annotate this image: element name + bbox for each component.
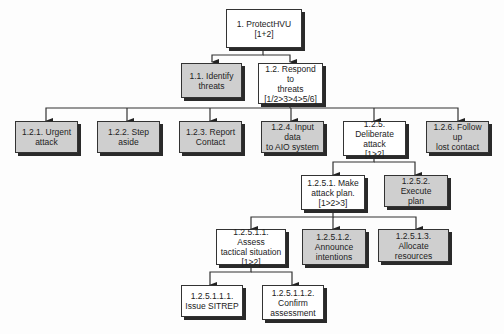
node-1-2-4-input-data: 1.2.4. Input data to AIO system — [261, 121, 324, 153]
node-1-2-3-report-contact: 1.2.3. Report Contact — [179, 121, 242, 153]
node-label: 1.2.1. Urgent attack — [22, 127, 71, 147]
node-1-2-5-1-make-attack-plan: 1.2.5.1. Make attack plan. [1>2>3] — [301, 175, 365, 210]
node-label: 1.2.2. Step aside — [100, 127, 157, 147]
node-1-2-5-1-3-allocate-resources: 1.2.5.1.3. Allocate resources — [378, 229, 449, 262]
node-1-2-5-deliberate-attack: 1.2.5. Deliberate attack [1>2] — [343, 121, 406, 156]
node-1-2-respond-to-threats: 1.2. Respond to threats [1/2>3>4>5/6] — [258, 63, 323, 104]
node-1-2-1-urgent-attack: 1.2.1. Urgent attack — [15, 121, 78, 153]
node-label: 1.2.6. Follow up lost contact — [429, 122, 486, 152]
node-1-2-2-step-aside: 1.2.2. Step aside — [97, 121, 160, 153]
node-label: 1.2.5. Deliberate attack [1>2] — [346, 119, 403, 159]
node-1-protect-hvu: 1. ProtectHVU [1+2] — [226, 9, 302, 48]
node-label: 1.2.5.1.1.2. Confirm assessment — [270, 288, 315, 318]
node-1-2-5-1-2-announce-intentions: 1.2.5.1.2. Announce intentions — [302, 229, 366, 265]
node-label: 1.2.5.1.2. Announce intentions — [315, 232, 353, 262]
node-label: 1.2.5.2. Execute plan — [387, 176, 445, 206]
node-label: 1.2.5.1. Make attack plan. [1>2>3] — [307, 178, 359, 208]
task-hierarchy-diagram: 1. ProtectHVU [1+2] 1.1. Identify threat… — [0, 0, 504, 334]
node-1-2-5-1-1-assess-tactical-situation: 1.2.5.1.1. Assess tactical situation [1>… — [216, 229, 286, 265]
node-label: 1.2.5.1.1.1. Issue SITREP — [185, 291, 238, 311]
node-1-1-identify-threats: 1.1. Identify threats — [181, 63, 242, 98]
node-label: 1.2. Respond to threats [1/2>3>4>5/6] — [261, 64, 320, 104]
connector-lines — [0, 0, 504, 334]
node-label: 1.1. Identify threats — [190, 71, 234, 91]
node-1-2-5-1-1-2-confirm-assessment: 1.2.5.1.1.2. Confirm assessment — [262, 285, 324, 320]
node-label: 1.2.3. Report Contact — [186, 127, 235, 147]
node-label: 1.2.4. Input data to AIO system — [264, 122, 321, 152]
node-1-2-5-2-execute-plan: 1.2.5.2. Execute plan — [384, 175, 448, 207]
node-label: 1. ProtectHVU [1+2] — [237, 19, 291, 39]
node-1-2-6-follow-up-lost-contact: 1.2.6. Follow up lost contact — [426, 121, 489, 153]
node-label: 1.2.5.1.3. Allocate resources — [381, 231, 446, 261]
node-label: 1.2.5.1.1. Assess tactical situation [1>… — [219, 227, 283, 267]
node-1-2-5-1-1-1-issue-sitrep: 1.2.5.1.1.1. Issue SITREP — [181, 285, 243, 317]
